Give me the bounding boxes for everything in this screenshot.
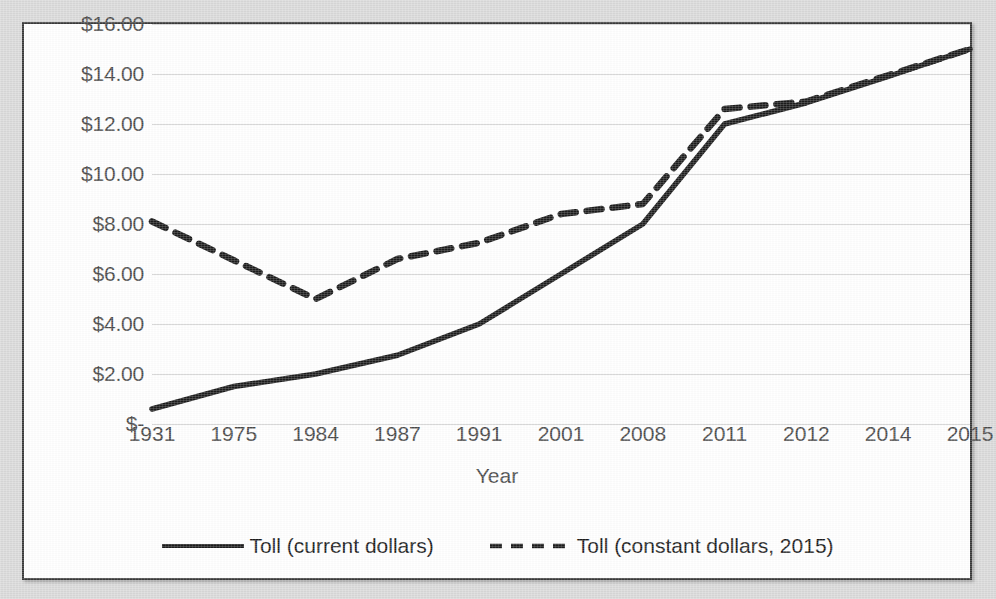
y-tick-label: $10.00 [40,162,144,186]
x-tick-label: 2012 [783,422,830,446]
y-tick-label: $4.00 [40,312,144,336]
y-tick-label: $6.00 [40,262,144,286]
x-axis-title: Year [24,464,970,488]
x-tick-label: 1975 [210,422,257,446]
x-tick-label: 1987 [374,422,421,446]
x-tick-label: 1991 [456,422,503,446]
x-tick-label: 2008 [619,422,666,446]
legend-item-current-dollars: Toll (current dollars) [160,534,433,558]
legend-label: Toll (current dollars) [249,534,433,558]
plot-region: $16.00$14.00$12.00$10.00$8.00$6.00$4.00$… [24,24,970,424]
x-tick-label: 1931 [129,422,176,446]
y-tick-label: $8.00 [40,212,144,236]
x-tick-label: 2014 [865,422,912,446]
series-line-2 [152,49,970,299]
x-tick-label: 2001 [538,422,585,446]
legend-item-constant-dollars: Toll (constant dollars, 2015) [488,534,834,558]
series-layer [152,24,970,424]
y-tick-label: $14.00 [40,62,144,86]
x-tick-label: 2015 [947,422,994,446]
plot-area [152,24,970,424]
legend-swatch-dashed-icon [488,539,574,553]
chart-container: $16.00$14.00$12.00$10.00$8.00$6.00$4.00$… [22,22,972,580]
series-line-1 [152,49,970,409]
y-tick-label: $2.00 [40,362,144,386]
x-axis: 1931197519841987199120012008201120122014… [152,422,970,458]
legend-label: Toll (constant dollars, 2015) [577,534,834,558]
legend-swatch-solid-icon [160,539,246,553]
y-tick-label: $12.00 [40,112,144,136]
x-tick-label: 2011 [702,422,747,446]
y-axis: $16.00$14.00$12.00$10.00$8.00$6.00$4.00$… [32,24,144,424]
chart-legend: Toll (current dollars) Toll (constant do… [24,534,970,558]
x-tick-label: 1984 [292,422,339,446]
y-tick-label: $16.00 [40,12,144,36]
